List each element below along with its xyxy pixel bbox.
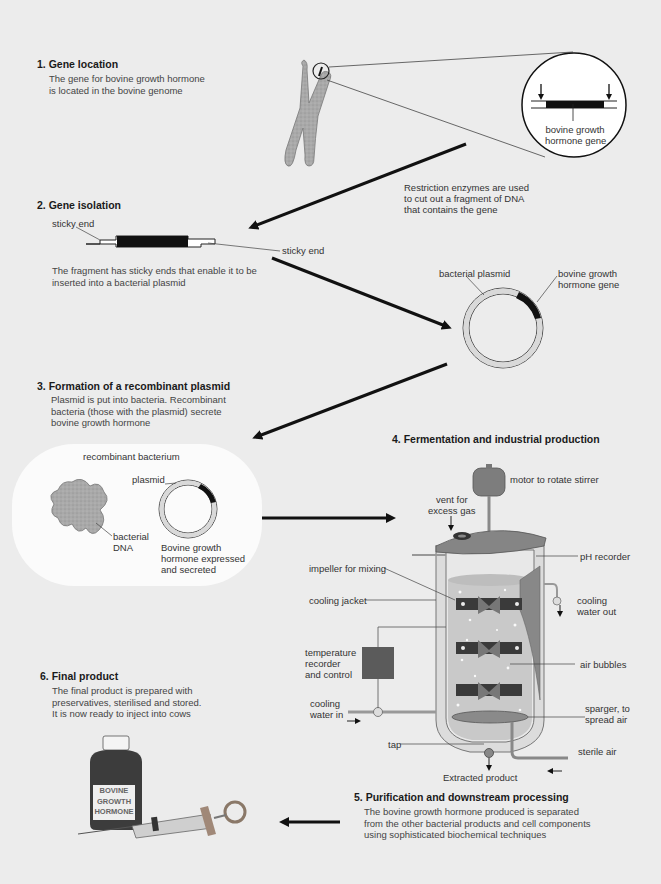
bottle-label-line: BOVINE: [93, 786, 135, 797]
step-5-number: 5.: [354, 791, 363, 803]
bottle-label-line: HORMONE: [93, 807, 135, 818]
arrow-step2-to-plasmid: [272, 258, 448, 327]
sparger-line: sparger, to: [585, 703, 630, 714]
step-5: 5. Purification and downstream processin…: [354, 791, 591, 841]
step-2: 2. Gene isolation: [37, 199, 121, 211]
temperature-label: temperature recorder and control: [305, 647, 356, 680]
cooling-water-out-label: cooling water out: [577, 595, 616, 617]
bottle-label: BOVINE GROWTH HORMONE: [93, 786, 135, 818]
restriction-note-line: to cut out a fragment of DNA: [404, 193, 529, 204]
plasmid-icon: [463, 276, 557, 368]
step-6-title: 6. Final product: [40, 670, 201, 682]
water-in-line: water in: [310, 709, 343, 720]
step-1: 1. Gene location The gene for bovine gro…: [37, 58, 205, 96]
step-1-desc-line: is located in the bovine genome: [49, 85, 205, 97]
air-bubbles-label: air bubbles: [580, 659, 626, 670]
sterile-air-label: sterile air: [578, 746, 617, 757]
step-3-title: 3. Formation of a recombinant plasmid: [37, 380, 230, 392]
cooling-water-in-label: cooling water in: [310, 698, 343, 720]
bacterial-dna-line: bacterial: [113, 531, 149, 542]
step-5-title: 5. Purification and downstream processin…: [354, 791, 591, 803]
plasmid-gene-line: bovine growth: [558, 268, 619, 279]
hormone-expressed-label: Bovine growth hormone expressed and secr…: [161, 542, 245, 575]
step-1-desc-line: The gene for bovine growth hormone: [49, 73, 205, 85]
hormone-expressed-line: Bovine growth: [161, 542, 245, 553]
step-3: 3. Formation of a recombinant plasmid Pl…: [37, 380, 230, 429]
step-1-number: 1.: [37, 58, 46, 70]
step-4-title-text: Fermentation and industrial production: [404, 433, 600, 445]
impeller-label: impeller for mixing: [309, 563, 386, 574]
step-1-description: The gene for bovine growth hormone is lo…: [49, 73, 205, 96]
step-6-desc-line: preservatives, sterilised and stored.: [52, 697, 201, 709]
plasmid-gene-line: hormone gene: [558, 279, 619, 290]
gene-callout-label: bovine growth hormone gene: [545, 124, 605, 146]
sticky-end-label-right: sticky end: [282, 245, 324, 256]
bacterial-dna-label: bacterial DNA: [113, 531, 149, 553]
sticky-end-label-left: sticky end: [52, 218, 94, 229]
step-2-desc-line: inserted into a bacterial plasmid: [52, 277, 257, 289]
hormone-expressed-line: hormone expressed: [161, 553, 245, 564]
step-6-desc-line: It is now ready to inject into cows: [52, 708, 201, 720]
water-out-line: water out: [577, 606, 616, 617]
step-6-desc-line: The final product is prepared with: [52, 685, 201, 697]
step-1-title-text: Gene location: [49, 58, 118, 70]
ph-recorder-label: pH recorder: [580, 551, 630, 562]
vent-line: excess gas: [428, 505, 476, 516]
step-6-number: 6.: [40, 670, 49, 682]
cooling-jacket-label: cooling jacket: [309, 595, 367, 606]
step-5-description: The bovine growth hormone produced is se…: [364, 806, 591, 841]
step-3-description: Plasmid is put into bacteria. Recombinan…: [51, 394, 230, 429]
gene-callout-line: bovine growth: [545, 124, 605, 135]
plasmid-label: plasmid: [132, 474, 165, 485]
plasmid-gene-label: bovine growth hormone gene: [558, 268, 619, 290]
restriction-note-line: that contains the gene: [404, 204, 529, 215]
step-2-description: The fragment has sticky ends that enable…: [52, 265, 257, 288]
step-5-desc-line: using sophisticated biochemical techniqu…: [364, 829, 591, 841]
temperature-line: recorder: [305, 658, 356, 669]
hormone-expressed-line: and secreted: [161, 564, 245, 575]
step-6: 6. Final product The final product is pr…: [40, 670, 201, 720]
gene-callout-line: hormone gene: [545, 135, 605, 146]
step-5-desc-line: from the other bacterial products and ce…: [364, 818, 591, 830]
vent-line: vent for: [428, 494, 476, 505]
sparger-line: spread air: [585, 714, 630, 725]
step-5-title-text: Purification and downstream processing: [366, 791, 569, 803]
restriction-enzyme-note: Restriction enzymes are used to cut out …: [404, 182, 529, 215]
step-4-title: 4. Fermentation and industrial productio…: [392, 433, 600, 445]
step-1-title: 1. Gene location: [37, 58, 205, 70]
step-4-number: 4.: [392, 433, 401, 445]
temperature-line: and control: [305, 669, 356, 680]
vent-label: vent for excess gas: [428, 494, 476, 516]
water-in-line: cooling: [310, 698, 343, 709]
restriction-note-line: Restriction enzymes are used: [404, 182, 529, 193]
step-2-desc-line: The fragment has sticky ends that enable…: [52, 265, 257, 277]
bottle-label-line: GROWTH: [93, 797, 135, 808]
extracted-product-label: Extracted product: [443, 772, 517, 783]
step-2-number: 2.: [37, 199, 46, 211]
temperature-line: temperature: [305, 647, 356, 658]
bacterial-dna-line: DNA: [113, 542, 149, 553]
arrow-plasmid-to-step3: [256, 364, 447, 437]
step-2-title: 2. Gene isolation: [37, 199, 121, 211]
recombinant-bacterium-label: recombinant bacterium: [83, 451, 180, 462]
bacterial-plasmid-label: bacterial plasmid: [439, 268, 510, 279]
tap-label: tap: [388, 739, 401, 750]
step-6-description: The final product is prepared with prese…: [52, 685, 201, 720]
water-out-line: cooling: [577, 595, 616, 606]
step-3-number: 3.: [37, 380, 46, 392]
sparger-label: sparger, to spread air: [585, 703, 630, 725]
step-5-desc-line: The bovine growth hormone produced is se…: [364, 806, 591, 818]
step-3-desc-line: bovine growth hormone: [51, 417, 230, 429]
step-2-title-text: Gene isolation: [49, 199, 121, 211]
motor-label: motor to rotate stirrer: [510, 474, 599, 485]
step-3-desc-line: Plasmid is put into bacteria. Recombinan…: [51, 394, 230, 406]
step-6-title-text: Final product: [52, 670, 119, 682]
dna-fragment-icon: [76, 227, 280, 251]
step-3-title-text: Formation of a recombinant plasmid: [49, 380, 230, 392]
step-3-desc-line: bacteria (those with the plasmid) secret…: [51, 406, 230, 418]
